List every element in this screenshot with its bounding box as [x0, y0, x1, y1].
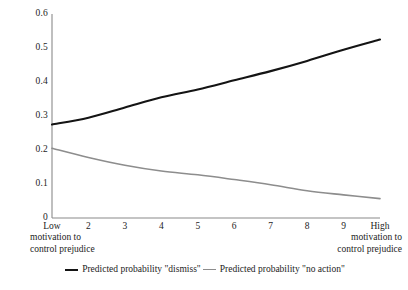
- x-axis-tick-label: High: [371, 221, 390, 232]
- legend-entry-label: Predicted probability "dismiss": [82, 264, 201, 275]
- x-axis-caption-low: motivation to control prejudice: [30, 232, 95, 255]
- series-line-dismiss: [52, 40, 380, 125]
- x-axis-caption-high-line1: motivation to: [337, 232, 402, 244]
- x-axis-tick-label: 6: [232, 221, 237, 232]
- x-axis-tick-label: 3: [123, 221, 128, 232]
- x-axis-tick-label: Low: [43, 221, 60, 232]
- y-axis-tick-label: 0.6: [4, 9, 48, 19]
- x-axis-caption-high: motivation to control prejudice: [337, 232, 402, 255]
- axes-group: [52, 14, 380, 218]
- series-line-no-action: [52, 148, 380, 198]
- y-axis-tick-label: 0.1: [4, 179, 48, 189]
- x-axis-tick-labels: Low23456789High: [52, 221, 380, 235]
- series-group: [52, 40, 380, 199]
- x-axis-caption-low-line2: control prejudice: [30, 244, 95, 256]
- x-axis-caption-low-line1: motivation to: [30, 232, 95, 244]
- chart-legend: Predicted probability "dismiss"Predicted…: [0, 264, 408, 275]
- y-axis-tick-label: 0.2: [4, 145, 48, 155]
- line-chart-figure: 0.60.50.40.30.20.10 Low23456789High moti…: [0, 0, 408, 290]
- x-axis-caption-high-line2: control prejudice: [337, 244, 402, 256]
- legend-entry-no-action[interactable]: Predicted probability "no action": [201, 264, 345, 275]
- legend-line-swatch-icon: [203, 269, 216, 270]
- x-axis-tick-label: 5: [195, 221, 200, 232]
- y-axis-tick-label: 0.5: [4, 43, 48, 53]
- y-axis-tick-labels: 0.60.50.40.30.20.10: [0, 0, 48, 232]
- x-axis-tick-label: 8: [305, 221, 310, 232]
- y-axis-tick-label: 0.3: [4, 111, 48, 121]
- x-axis-tick-label: 4: [159, 221, 164, 232]
- y-axis-tick-label: 0: [4, 213, 48, 223]
- legend-line-swatch-icon: [65, 269, 78, 271]
- x-axis-tick-label: 2: [86, 221, 91, 232]
- y-axis-tick-label: 0.4: [4, 77, 48, 87]
- legend-entry-dismiss[interactable]: Predicted probability "dismiss": [63, 264, 201, 275]
- x-axis-tick-label: 7: [268, 221, 273, 232]
- x-axis-tick-label: 9: [341, 221, 346, 232]
- legend-entry-label: Predicted probability "no action": [220, 264, 345, 275]
